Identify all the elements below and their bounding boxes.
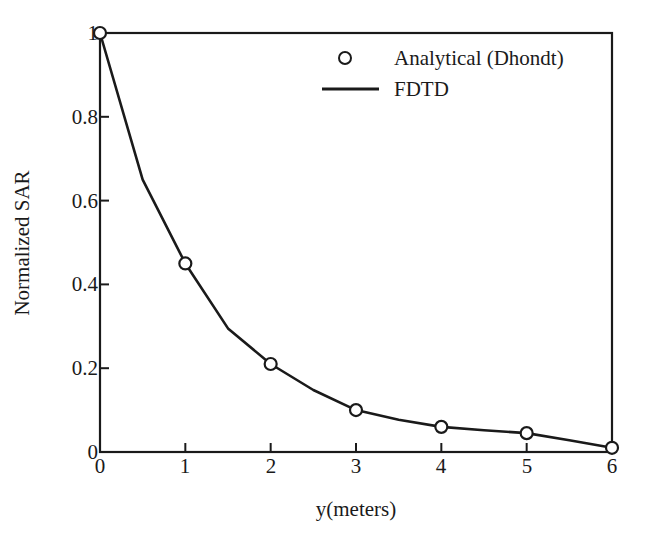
legend-label-fdtd: FDTD — [394, 79, 449, 100]
y-tick-label: 0.6 — [72, 191, 98, 212]
y-tick-label: 0.8 — [72, 107, 98, 128]
x-tick-label: 2 — [266, 456, 277, 477]
data-point-marker — [350, 404, 362, 416]
legend-marker-circle-icon — [339, 52, 351, 64]
y-tick-label: 1 — [88, 23, 99, 44]
data-point-marker — [521, 427, 533, 439]
chart-figure: 0 0.2 0.4 0.6 0.8 1 0 1 2 3 4 5 6 y(mete… — [0, 0, 664, 537]
y-tick-label: 0.2 — [72, 358, 98, 379]
data-point-marker — [179, 257, 191, 269]
x-tick-label: 4 — [436, 456, 447, 477]
x-tick-label: 6 — [607, 456, 618, 477]
x-tick-label: 1 — [180, 456, 191, 477]
x-tick-label: 3 — [351, 456, 362, 477]
data-point-marker — [435, 421, 447, 433]
x-axis-title: y(meters) — [316, 497, 396, 522]
y-axis-title: Normalized SAR — [10, 170, 35, 315]
legend-label-analytical: Analytical (Dhondt) — [394, 48, 564, 69]
data-point-marker — [265, 358, 277, 370]
series-line-fdtd — [100, 33, 612, 448]
x-tick-label: 0 — [95, 456, 106, 477]
x-tick-label: 5 — [522, 456, 533, 477]
y-tick-label: 0.4 — [72, 274, 98, 295]
data-point-marker — [606, 442, 618, 454]
plot-frame — [100, 33, 612, 452]
